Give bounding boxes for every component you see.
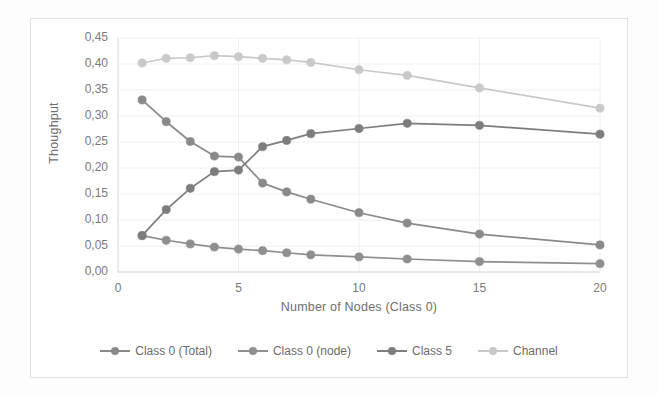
data-point <box>355 253 363 261</box>
x-axis-title: Number of Nodes (Class 0) <box>118 300 600 314</box>
data-point <box>259 247 267 255</box>
legend-item-1[interactable]: Class 0 (node) <box>238 344 351 358</box>
data-point <box>186 54 194 62</box>
data-point <box>186 240 194 248</box>
data-point <box>596 130 604 138</box>
data-point <box>283 249 291 257</box>
data-point <box>162 118 170 126</box>
legend-marker-icon <box>238 346 268 356</box>
data-point <box>475 258 483 266</box>
chart-legend: Class 0 (Total)Class 0 (node)Class 5Chan… <box>30 344 628 358</box>
data-point <box>186 184 194 192</box>
data-point <box>210 152 218 160</box>
data-point <box>307 130 315 138</box>
legend-dot <box>489 347 497 355</box>
data-point <box>259 143 267 151</box>
data-point <box>210 168 218 176</box>
series-lines <box>142 56 600 264</box>
series-markers <box>138 52 604 268</box>
data-point <box>307 251 315 259</box>
data-point <box>403 119 411 127</box>
y-tick-label: 0,45 <box>68 30 108 44</box>
y-tick-label: 0,05 <box>68 238 108 252</box>
y-tick-label: 0,20 <box>68 160 108 174</box>
data-point <box>355 209 363 217</box>
data-point <box>234 153 242 161</box>
data-point <box>403 71 411 79</box>
y-tick-label: 0,15 <box>68 186 108 200</box>
data-point <box>234 245 242 253</box>
data-point <box>596 241 604 249</box>
data-point <box>283 188 291 196</box>
x-tick-label: 10 <box>339 281 379 295</box>
legend-label: Class 0 (node) <box>272 344 351 358</box>
legend-marker-icon <box>478 346 508 356</box>
data-point <box>596 260 604 268</box>
y-tick-label: 0,30 <box>68 108 108 122</box>
legend-item-0[interactable]: Class 0 (Total) <box>100 344 212 358</box>
y-tick-label: 0,10 <box>68 212 108 226</box>
legend-dot <box>249 347 257 355</box>
data-point <box>355 66 363 74</box>
series-line-2 <box>142 123 600 235</box>
data-point <box>138 96 146 104</box>
data-point <box>283 136 291 144</box>
legend-label: Class 5 <box>411 344 452 358</box>
data-point <box>162 236 170 244</box>
data-point <box>403 255 411 263</box>
legend-item-3[interactable]: Channel <box>478 344 558 358</box>
chart-figure: 0,000,050,100,150,200,250,300,350,400,45… <box>0 0 658 395</box>
legend-marker-icon <box>100 346 130 356</box>
legend-dot <box>111 347 119 355</box>
series-line-1 <box>142 236 600 264</box>
x-tick-label: 0 <box>98 281 138 295</box>
data-point <box>138 232 146 240</box>
y-tick-label: 0,40 <box>68 56 108 70</box>
data-point <box>259 179 267 187</box>
data-point <box>138 59 146 67</box>
data-point <box>307 195 315 203</box>
data-point <box>259 54 267 62</box>
data-point <box>162 206 170 214</box>
plot-area: 0,000,050,100,150,200,250,300,350,400,45… <box>0 0 658 395</box>
legend-marker-icon <box>377 346 407 356</box>
data-point <box>162 54 170 62</box>
data-point <box>234 166 242 174</box>
x-tick-label: 20 <box>580 281 620 295</box>
legend-dot <box>388 347 396 355</box>
data-point <box>210 52 218 60</box>
data-point <box>307 58 315 66</box>
data-point <box>403 219 411 227</box>
x-tick-label: 15 <box>460 281 500 295</box>
data-point <box>186 137 194 145</box>
data-point <box>283 56 291 64</box>
legend-label: Channel <box>512 344 558 358</box>
data-point <box>475 84 483 92</box>
legend-label: Class 0 (Total) <box>134 344 212 358</box>
y-tick-label: 0,00 <box>68 264 108 278</box>
data-point <box>475 121 483 129</box>
data-point <box>596 104 604 112</box>
data-point <box>234 53 242 61</box>
y-tick-label: 0,35 <box>68 82 108 96</box>
data-point <box>210 243 218 251</box>
data-point <box>475 230 483 238</box>
x-tick-label: 5 <box>219 281 259 295</box>
y-tick-label: 0,25 <box>68 134 108 148</box>
legend-item-2[interactable]: Class 5 <box>377 344 452 358</box>
data-point <box>355 124 363 132</box>
y-axis-title: Thoughput <box>47 63 61 203</box>
